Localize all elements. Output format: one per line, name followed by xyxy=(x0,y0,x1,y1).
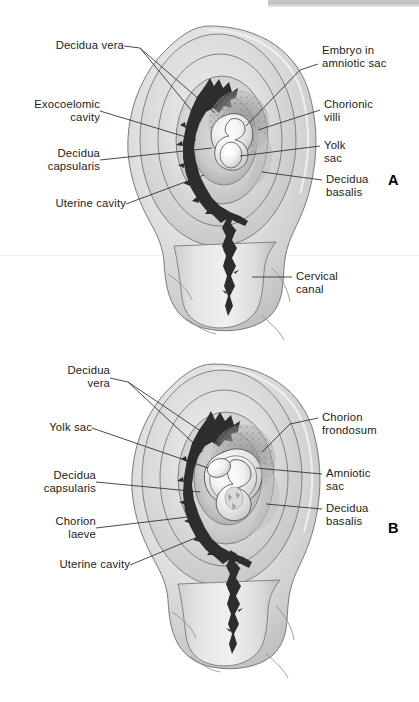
label-decidua-capsularis-b: Decidua capsularis xyxy=(22,469,96,495)
label-chorion-frondosum: Chorion frondosum xyxy=(322,411,412,437)
label-chorion-laeve: Chorion laeve xyxy=(26,515,96,541)
panel-letter-a: A xyxy=(388,172,398,188)
label-yolk-sac-b: Yolk sac xyxy=(18,421,92,434)
label-chorionic-villi: Chorionic villi xyxy=(324,98,404,124)
panel-a-illustration xyxy=(100,26,322,340)
label-cervical-canal: Cervical canal xyxy=(296,270,372,296)
panel-letter-b: B xyxy=(388,520,398,536)
label-yolk-sac-a: Yolk sac xyxy=(324,139,384,165)
label-exocoelomic-cavity: Exocoelomic cavity xyxy=(16,98,100,124)
label-embryo-amniotic-sac: Embryo in amniotic sac xyxy=(322,44,412,70)
label-decidua-capsularis-a: Decidua capsularis xyxy=(26,147,100,173)
label-amniotic-sac-b: Amniotic sac xyxy=(326,467,404,493)
panel-b-illustration xyxy=(92,364,322,678)
label-uterine-cavity-a: Uterine cavity xyxy=(28,197,126,210)
label-uterine-cavity-b: Uterine cavity xyxy=(32,558,130,571)
label-decidua-vera-a: Decidua vera xyxy=(26,39,124,52)
yolk-sac-highlight xyxy=(224,145,234,157)
label-decidua-vera-b: Decidua vera xyxy=(32,364,110,390)
figure-root: Decidua vera Exocoelomic cavity Decidua … xyxy=(0,0,419,702)
